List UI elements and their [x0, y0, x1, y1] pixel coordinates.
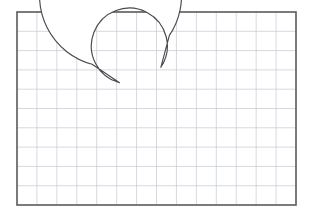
figure-canvas — [0, 0, 313, 220]
figure-svg — [0, 0, 313, 220]
